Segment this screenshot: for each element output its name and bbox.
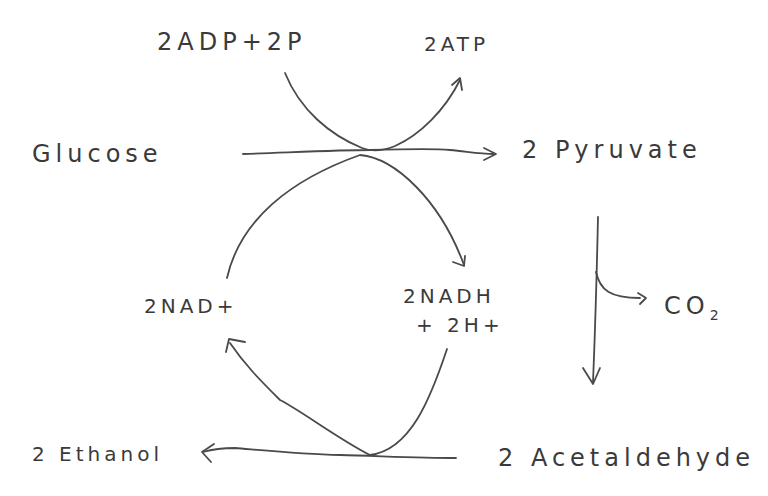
label-adp-input: 2ADP+2P <box>157 30 307 54</box>
label-glucose: Glucose <box>32 142 163 166</box>
arrow-nadh-to-nad <box>226 339 447 455</box>
label-nadh-line2: + 2H+ <box>416 315 504 335</box>
label-pyruvate: 2 Pyruvate <box>522 138 702 162</box>
fermentation-diagram: 2ADP+2P 2ATP Glucose 2 Pyruvate 2NAD+ 2N… <box>0 0 768 496</box>
arrow-nad-to-nadh <box>227 155 465 278</box>
label-ethanol: 2 Ethanol <box>32 444 163 464</box>
label-nad-plus: 2NAD+ <box>144 296 238 316</box>
pathway-arrows <box>0 0 768 496</box>
label-co2-main: CO <box>664 292 710 320</box>
label-co2-subscript: 2 <box>710 307 719 323</box>
arrow-pyruvate-to-acetaldehyde <box>583 217 600 384</box>
arrow-acetaldehyde-to-ethanol <box>202 444 456 462</box>
label-co2: CO2 <box>664 294 719 322</box>
label-acetaldehyde: 2 Acetaldehyde <box>498 446 755 470</box>
label-atp-output: 2ATP <box>424 34 489 54</box>
arrow-to-co2 <box>596 272 646 304</box>
label-nadh-line1: 2NADH <box>403 286 495 306</box>
arrow-adp-to-atp <box>285 73 462 150</box>
